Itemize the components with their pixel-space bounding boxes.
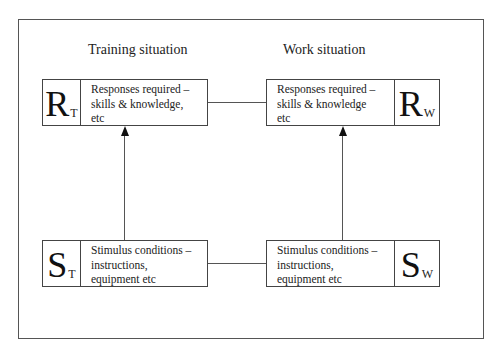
symbol-cell: ST [43, 241, 81, 286]
description-line: Responses required – [91, 82, 207, 97]
description-line: equipment etc [91, 272, 207, 287]
arrow-up-icon [121, 126, 129, 136]
box-description: Responses required – skills & knowledge,… [81, 80, 207, 125]
symbol-subscript: W [422, 268, 433, 280]
arrow-work-shaft [342, 134, 343, 240]
heading-training-situation: Training situation [88, 42, 187, 58]
arrow-training-shaft [124, 134, 125, 240]
box-description: Stimulus conditions – instructions, equi… [267, 241, 394, 286]
description-line: skills & knowledge, [91, 97, 207, 112]
symbol-letter: S [401, 247, 421, 283]
diagram-frame [18, 19, 484, 339]
description-line: etc [277, 111, 394, 126]
box-response-work: Responses required – skills & knowledge … [266, 79, 440, 126]
description-line: Responses required – [277, 82, 394, 97]
connector-responses [207, 102, 267, 103]
symbol-subscript: T [70, 107, 77, 119]
symbol-letter: R [45, 86, 69, 122]
description-line: Stimulus conditions – [277, 243, 394, 258]
box-description: Stimulus conditions – instructions, equi… [81, 241, 207, 286]
symbol-letter: R [399, 86, 423, 122]
box-stimulus-training: ST Stimulus conditions – instructions, e… [42, 240, 208, 287]
description-line: instructions, [277, 258, 394, 273]
symbol-cell: RT [43, 80, 81, 125]
box-response-training: RT Responses required – skills & knowled… [42, 79, 208, 126]
heading-work-situation: Work situation [283, 42, 365, 58]
symbol-subscript: W [424, 107, 435, 119]
arrow-up-icon [339, 126, 347, 136]
description-line: equipment etc [277, 272, 394, 287]
description-line: Stimulus conditions – [91, 243, 207, 258]
symbol-subscript: T [68, 268, 75, 280]
description-line: instructions, [91, 258, 207, 273]
symbol-letter: S [47, 247, 67, 283]
symbol-cell: SW [394, 241, 439, 286]
symbol-cell: RW [394, 80, 439, 125]
description-line: etc [91, 111, 207, 126]
box-stimulus-work: Stimulus conditions – instructions, equi… [266, 240, 440, 287]
description-line: skills & knowledge [277, 97, 394, 112]
connector-stimuli [207, 263, 267, 264]
box-description: Responses required – skills & knowledge … [267, 80, 394, 125]
